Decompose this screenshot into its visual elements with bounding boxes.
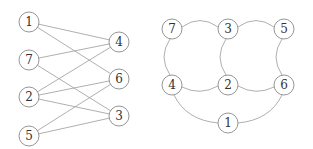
node-label: 5 <box>25 129 33 143</box>
edge-2-6 <box>238 86 274 91</box>
node-label: 2 <box>224 78 232 92</box>
planar-node-3: 3 <box>218 19 238 39</box>
edge-4-1 <box>174 95 218 123</box>
node-label: 6 <box>280 78 288 92</box>
edge-5-3 <box>29 116 119 136</box>
node-label: 7 <box>25 53 33 67</box>
node-label: 3 <box>115 109 123 123</box>
node-label: 4 <box>115 35 123 49</box>
graph-diagram: 1 7 2 5 4 6 3 7 3 5 4 2 6 1 <box>0 0 313 149</box>
planar-node-6: 6 <box>274 75 294 95</box>
planar-node-1: 1 <box>218 113 238 133</box>
planar-node-2: 2 <box>218 75 238 95</box>
left-node-5: 5 <box>19 126 39 146</box>
edge-7-4 <box>29 42 119 60</box>
node-label: 1 <box>224 116 232 130</box>
right-graph-nodes: 7 3 5 4 2 6 1 <box>162 19 294 133</box>
node-label: 5 <box>280 22 288 36</box>
node-label: 1 <box>25 15 33 29</box>
left-node-1: 1 <box>19 12 39 32</box>
edge-4-2 <box>182 86 218 91</box>
edge-3-5 <box>238 21 274 28</box>
left-graph-edges <box>29 22 119 136</box>
right-node-6: 6 <box>109 69 129 89</box>
right-node-3: 3 <box>109 106 129 126</box>
edge-1-6 <box>238 95 282 123</box>
planar-node-7: 7 <box>162 19 182 39</box>
node-label: 3 <box>224 22 232 36</box>
edge-7-3 <box>182 21 218 28</box>
edge-7-4 <box>164 39 170 75</box>
node-label: 2 <box>25 90 33 104</box>
edge-1-4 <box>29 22 119 42</box>
node-label: 4 <box>168 78 176 92</box>
edge-2-3 <box>29 97 119 116</box>
edge-3-2 <box>220 39 226 75</box>
planar-node-5: 5 <box>274 19 294 39</box>
node-label: 7 <box>168 22 176 36</box>
edge-5-6 <box>276 39 282 75</box>
right-node-4: 4 <box>109 32 129 52</box>
planar-node-4: 4 <box>162 75 182 95</box>
left-node-7: 7 <box>19 50 39 70</box>
left-node-2: 2 <box>19 87 39 107</box>
node-label: 6 <box>115 72 123 86</box>
